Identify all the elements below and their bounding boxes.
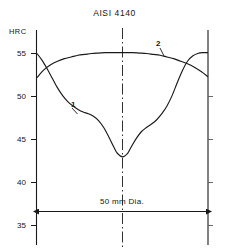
right-boundary-line	[208, 30, 213, 245]
y-axis	[31, 30, 37, 245]
chart-plot-area	[0, 0, 229, 252]
chart-page: AISI 4140 HRC 55 50 45 40 35 1 2 50 mm D…	[0, 0, 229, 252]
